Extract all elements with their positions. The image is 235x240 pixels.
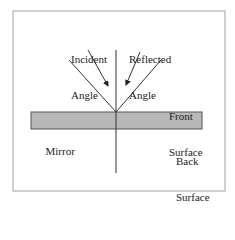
reflected-label-line2: Angle xyxy=(129,89,171,101)
mirror-label: Mirror xyxy=(40,133,75,157)
incident-label-line2: Angle xyxy=(71,89,107,101)
mirror-label-text: Mirror xyxy=(46,145,75,157)
back-label-line1: Back xyxy=(176,155,210,167)
incident-angle-label: Incident Angle xyxy=(71,29,107,113)
incident-label-line1: Incident xyxy=(71,53,107,65)
reflected-angle-label: Reflected Angle xyxy=(129,29,171,113)
front-label-line1: Front xyxy=(169,110,203,122)
back-surface-label: Back Surface xyxy=(176,131,210,201)
reflected-label-line1: Reflected xyxy=(129,53,171,65)
back-label-line2: Surface xyxy=(176,191,210,201)
